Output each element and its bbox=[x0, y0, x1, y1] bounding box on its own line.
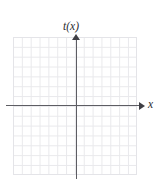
y-axis-label: t(x) bbox=[63, 21, 79, 33]
y-axis-arrow-icon bbox=[72, 34, 80, 40]
x-axis-label: x bbox=[148, 99, 153, 111]
coordinate-grid-figure: t(x) x bbox=[0, 0, 161, 184]
x-axis-arrow-icon bbox=[139, 102, 145, 110]
y-axis-line bbox=[76, 39, 77, 179]
x-axis-line bbox=[6, 105, 140, 106]
